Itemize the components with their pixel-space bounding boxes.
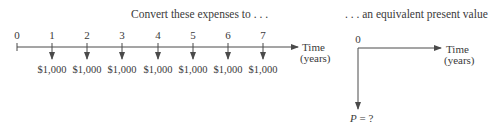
period-label: 2 <box>84 30 90 41</box>
expense-amount: $1,000 <box>179 64 208 75</box>
period-label: 7 <box>260 30 266 41</box>
period-label: 0 <box>14 30 20 41</box>
period-label: 6 <box>225 30 231 41</box>
present-value-label: P = ? <box>350 113 373 124</box>
left-axis-label-years: (years) <box>300 53 331 64</box>
expense-amount: $1,000 <box>214 64 243 75</box>
right-timeline <box>358 48 441 109</box>
expense-amount: $1,000 <box>108 64 137 75</box>
left-caption: Convert these expenses to . . . <box>131 9 268 20</box>
expense-amount: $1,000 <box>144 64 173 75</box>
period-label: 3 <box>119 30 125 41</box>
expense-amount: $1,000 <box>73 64 102 75</box>
present-value-variable: P <box>350 112 357 124</box>
left-timeline <box>17 43 298 59</box>
period-label: 4 <box>155 30 161 41</box>
right-period-label: 0 <box>355 34 361 45</box>
right-caption: . . . an equivalent present value <box>345 9 488 20</box>
present-value-equation: = ? <box>357 112 374 124</box>
period-label: 1 <box>49 30 55 41</box>
expense-amount: $1,000 <box>249 64 278 75</box>
period-label: 5 <box>190 30 196 41</box>
expense-arrows <box>52 43 263 59</box>
right-axis-label-years: (years) <box>444 55 475 66</box>
expense-amount: $1,000 <box>38 64 67 75</box>
